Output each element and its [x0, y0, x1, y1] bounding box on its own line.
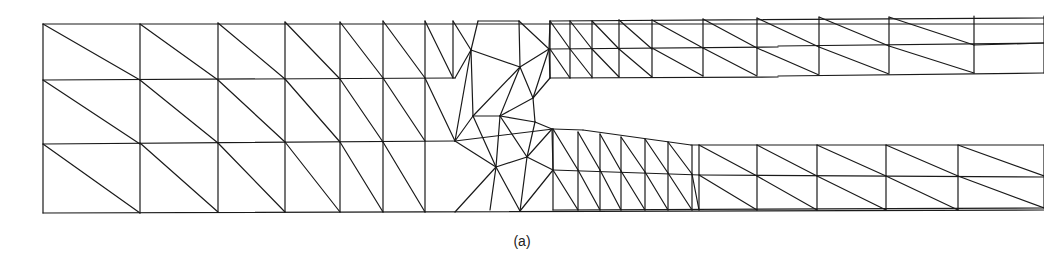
mesh-edge	[600, 134, 621, 171]
mesh-edge	[550, 49, 570, 78]
mesh-edge	[757, 176, 817, 210]
mesh-edge	[340, 79, 383, 142]
mesh-edge	[645, 172, 668, 210]
mesh-edge	[340, 22, 383, 78]
mesh-edge	[535, 122, 552, 129]
mesh-edge	[692, 174, 699, 210]
mesh-edge	[140, 143, 218, 212]
mesh-edge	[500, 67, 520, 116]
mesh-edge	[592, 49, 619, 77]
mesh-edge	[285, 79, 340, 142]
mesh-edge	[527, 157, 553, 170]
mesh-edge	[383, 142, 425, 212]
mesh-edge	[453, 21, 471, 50]
mesh-edge	[425, 78, 455, 141]
mesh-edge	[140, 24, 218, 80]
mesh-edge	[553, 170, 700, 175]
mesh-edge	[43, 24, 140, 80]
mesh-edge	[703, 48, 757, 76]
mesh-edge	[553, 170, 578, 210]
mesh-edge	[533, 98, 535, 122]
mesh-edge	[699, 145, 757, 176]
mesh-edge	[500, 98, 533, 116]
mesh-edge	[471, 50, 473, 116]
mesh-edge	[285, 22, 340, 79]
mesh-edge	[889, 46, 974, 73]
figure-caption: (a)	[0, 233, 1044, 249]
mesh-edge	[619, 49, 652, 77]
mesh-edge	[218, 80, 285, 142]
mesh-edge	[533, 49, 549, 98]
mesh-edge	[652, 48, 703, 76]
mesh-edge	[455, 167, 496, 212]
mesh-edge	[496, 157, 527, 167]
mesh-edge	[958, 145, 1044, 176]
mesh-edge	[757, 48, 819, 75]
finite-element-mesh	[0, 0, 1044, 270]
mesh-edge	[817, 145, 886, 176]
mesh-edge	[455, 129, 553, 141]
mesh-edge	[500, 116, 535, 122]
mesh-edge	[496, 167, 520, 211]
mesh-edge	[425, 21, 453, 78]
mesh-edge	[886, 176, 958, 210]
mesh-edge	[550, 18, 1044, 21]
mesh-edge	[570, 21, 592, 49]
mesh-edge	[668, 142, 692, 174]
mesh-edge	[700, 175, 1044, 177]
mesh-edge	[550, 47, 778, 49]
mesh-edge	[496, 116, 500, 167]
mesh-edge	[553, 129, 578, 170]
mesh-edge	[819, 47, 889, 74]
mesh-edge	[578, 170, 600, 210]
mesh-edge	[471, 21, 478, 50]
mesh-edge	[471, 50, 520, 67]
mesh-edge	[383, 78, 425, 141]
mesh-edge	[757, 18, 819, 47]
mesh-edge	[817, 176, 886, 210]
mesh-edge	[43, 80, 140, 144]
mesh-edge	[621, 137, 645, 172]
mesh-edge	[819, 17, 889, 46]
mesh-edge	[550, 21, 570, 49]
mesh-edge	[553, 129, 583, 130]
mesh-edge	[699, 175, 757, 210]
mesh-edge	[519, 21, 520, 67]
mesh-edge	[285, 142, 340, 212]
mesh-edge	[520, 49, 549, 67]
mesh-edge	[886, 145, 958, 176]
mesh-edge	[533, 78, 550, 98]
mesh-edge	[43, 141, 455, 144]
mesh-edge	[43, 78, 455, 80]
mesh-edge	[519, 21, 549, 49]
mesh-edge	[889, 17, 974, 45]
mesh-edge	[757, 145, 817, 176]
mesh-edge	[600, 170, 621, 210]
mesh-edge	[668, 173, 692, 210]
mesh-edge	[140, 80, 218, 143]
mesh-edge	[218, 143, 285, 212]
mesh-edge	[383, 21, 425, 78]
mesh-edge	[645, 139, 668, 173]
mesh-edge	[578, 132, 600, 170]
mesh-edge	[43, 144, 140, 213]
mesh-edge	[550, 77, 778, 78]
mesh-edge	[621, 171, 645, 210]
mesh-edge	[592, 21, 619, 49]
mesh-edge	[340, 142, 383, 212]
mesh-edge	[43, 210, 1044, 213]
mesh-edge	[570, 49, 592, 77]
mesh-edge	[958, 176, 1044, 208]
mesh-edge	[500, 116, 527, 157]
mesh-edge	[218, 23, 285, 79]
mesh-edge	[583, 130, 691, 145]
mesh-edge	[520, 67, 533, 98]
mesh-edge	[703, 19, 757, 48]
mesh-edges	[43, 16, 1044, 213]
